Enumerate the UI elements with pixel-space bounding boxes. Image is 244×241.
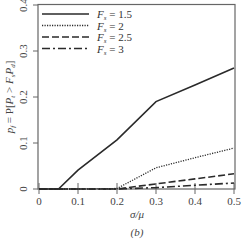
x-tick-label: 0.2: [110, 195, 124, 207]
y-tick-label: 0: [17, 186, 29, 192]
x-axis-ticks: 00.10.20.30.40.5: [36, 183, 241, 207]
y-axis-label: pf = P[Pt > FsPd]: [3, 61, 17, 135]
y-axis-ticks: 00.10.20.30.4: [17, 0, 38, 192]
series-line-1: [39, 148, 234, 189]
series-line-2: [39, 174, 234, 189]
x-tick-label: 0.1: [71, 195, 85, 207]
legend-entry: Fs = 3: [96, 43, 124, 57]
y-tick-label: 0.1: [17, 136, 29, 150]
y-tick-label: 0.4: [17, 0, 29, 12]
plot-frame: [38, 5, 235, 190]
y-tick-label: 0.3: [17, 44, 29, 58]
x-tick-label: 0.3: [149, 195, 163, 207]
x-axis-label: σ/μ: [130, 208, 144, 220]
series-line-3: [39, 183, 234, 189]
line-chart: 00.10.20.30.4 00.10.20.30.40.5 Fs = 1.5F…: [0, 0, 244, 241]
svg-text:pf = P[Pt > FsPd]: pf = P[Pt > FsPd]: [3, 61, 17, 135]
series-line-0: [39, 68, 234, 189]
figure-caption: (b): [131, 226, 144, 239]
legend: Fs = 1.5Fs = 2Fs = 2.5Fs = 3: [42, 8, 132, 57]
x-tick-label: 0: [36, 195, 42, 207]
series-lines: [39, 68, 234, 189]
x-tick-label: 0.5: [227, 195, 241, 207]
y-tick-label: 0.2: [17, 90, 29, 104]
x-tick-label: 0.4: [188, 195, 202, 207]
